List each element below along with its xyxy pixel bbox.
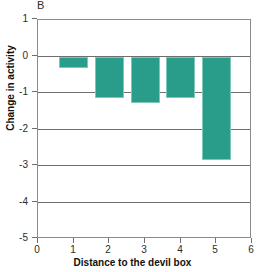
x-tick-label: 4: [168, 244, 192, 255]
y-tick-label: -4: [0, 197, 28, 207]
x-tick-label: 5: [203, 244, 227, 255]
bar: [59, 57, 88, 68]
x-axis-title: Distance to the devil box: [0, 257, 265, 269]
x-tick-label: 6: [239, 244, 263, 255]
x-tick: [251, 238, 252, 243]
plot-area: [37, 19, 251, 238]
y-tick-label: -2: [0, 124, 28, 134]
x-tick: [73, 238, 74, 243]
gridline-y--4: [38, 202, 250, 203]
gridline-y--3: [38, 165, 250, 166]
bar: [166, 57, 195, 98]
y-tick-label: -1: [0, 87, 28, 97]
bar: [95, 57, 124, 98]
x-tick: [108, 238, 109, 243]
x-tick: [144, 238, 145, 243]
y-tick: [32, 18, 37, 19]
x-tick: [180, 238, 181, 243]
x-tick-label: 0: [25, 244, 49, 255]
panel-label: B: [37, 0, 44, 11]
y-tick: [32, 128, 37, 129]
x-tick-label: 2: [96, 244, 120, 255]
x-tick: [215, 238, 216, 243]
y-tick-label: 0: [0, 51, 28, 61]
y-tick-label: -5: [0, 233, 28, 243]
y-tick: [32, 55, 37, 56]
figure-panel-b: B Change in activity Distance to the dev…: [0, 0, 265, 272]
y-tick-label: -3: [0, 160, 28, 170]
y-tick: [32, 91, 37, 92]
y-tick: [32, 201, 37, 202]
y-tick-label: 1: [0, 14, 28, 24]
x-tick-label: 3: [132, 244, 156, 255]
bar: [202, 57, 231, 160]
x-tick: [37, 238, 38, 243]
x-tick-label: 1: [61, 244, 85, 255]
y-tick: [32, 164, 37, 165]
bar: [131, 57, 160, 103]
